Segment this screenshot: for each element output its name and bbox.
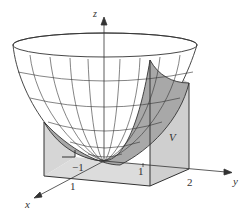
tick-label-y-1: 1 [138,166,144,177]
z-axis-arrow-icon [101,17,107,25]
tick-label-y-2: 2 [187,177,193,188]
x-axis-arrow-icon [34,192,42,198]
tick-label-neg-1: −1 [72,162,84,173]
y-axis-arrow-icon [224,169,232,175]
z-axis-label: z [93,9,97,19]
region-label-v: V [169,132,176,143]
tick-label-x-1: 1 [70,181,76,192]
y-axis-label: y [233,176,238,187]
paraboloid-volume-diagram [0,0,250,219]
x-axis-label: x [25,199,30,210]
